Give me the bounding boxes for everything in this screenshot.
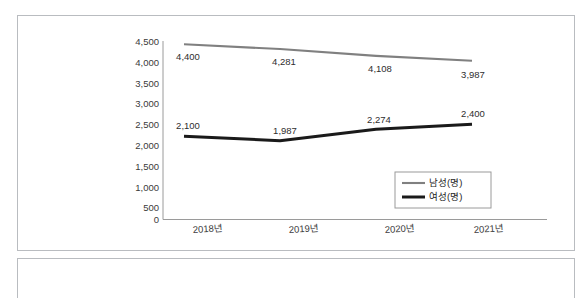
y-tick-label: 2,500 <box>135 119 159 130</box>
data-label: 4,400 <box>176 51 200 62</box>
data-label: 2,400 <box>461 108 485 119</box>
line-chart-svg: 4,500 4,000 3,500 3,000 2,500 2,000 1,50… <box>18 16 576 252</box>
legend-label-male: 남성(명) <box>429 177 462 188</box>
x-axis-ticks: 2018년 2019년 2020년 2021년 <box>192 222 504 235</box>
y-axis-ticks: 4,500 4,000 3,500 3,000 2,500 2,000 1,50… <box>135 36 159 225</box>
data-label: 2,100 <box>176 120 200 131</box>
y-tick-label: 4,000 <box>135 57 159 68</box>
series-line-male <box>184 44 472 60</box>
y-tick-label: 0 <box>154 214 159 225</box>
y-tick-label: 3,500 <box>135 78 159 89</box>
y-tick-label: 2,000 <box>135 140 159 151</box>
chart-legend[interactable]: 남성(명) 여성(명) <box>395 172 491 208</box>
data-label: 3,987 <box>461 69 485 80</box>
chart-panel: 4,500 4,000 3,500 3,000 2,500 2,000 1,50… <box>17 15 575 251</box>
line-chart: 4,500 4,000 3,500 3,000 2,500 2,000 1,50… <box>18 16 576 252</box>
x-tick-label: 2020년 <box>384 222 415 235</box>
y-tick-label: 4,500 <box>135 36 159 47</box>
y-tick-label: 1,500 <box>135 161 159 172</box>
y-tick-label: 500 <box>143 202 159 213</box>
x-tick-label: 2021년 <box>473 222 504 235</box>
data-label: 4,281 <box>272 56 296 67</box>
x-tick-label: 2018년 <box>192 222 223 235</box>
legend-label-female: 여성(명) <box>429 191 462 202</box>
data-labels-female: 2,100 1,987 2,274 2,400 <box>176 108 485 136</box>
y-tick-label: 3,000 <box>135 98 159 109</box>
x-tick-label: 2019년 <box>288 222 319 235</box>
data-labels-male: 4,400 4,281 4,108 3,987 <box>176 51 485 80</box>
series-line-female <box>184 124 472 140</box>
data-label: 1,987 <box>273 125 297 136</box>
next-panel-top-edge <box>17 258 575 298</box>
y-tick-label: 1,000 <box>135 182 159 193</box>
data-label: 4,108 <box>368 63 392 74</box>
data-label: 2,274 <box>367 114 391 125</box>
